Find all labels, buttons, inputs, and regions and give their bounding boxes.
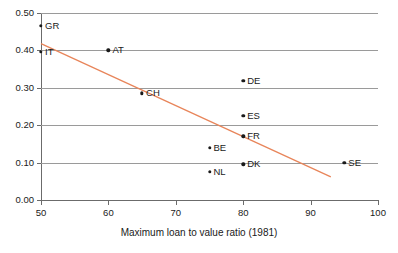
data-point-label: AT	[112, 46, 123, 56]
y-tick-mark	[37, 13, 41, 14]
x-tick-label: 60	[103, 208, 114, 218]
x-tick-mark	[378, 201, 379, 205]
x-tick-mark	[311, 201, 312, 205]
x-tick-mark	[108, 201, 109, 205]
y-tick-mark	[37, 125, 41, 126]
x-tick-mark	[243, 201, 244, 205]
gridline-horizontal	[41, 50, 378, 51]
data-point-label: CH	[146, 89, 160, 99]
y-tick-mark	[37, 163, 41, 164]
gridline-horizontal	[41, 88, 378, 89]
data-point-label: FR	[247, 132, 260, 142]
x-tick-label: 50	[36, 208, 47, 218]
data-point-label: IT	[45, 47, 53, 57]
y-tick-label: 0.20	[16, 120, 35, 130]
y-tick-label: 0.00	[16, 195, 35, 205]
x-axis-title: Maximum loan to value ratio (1981)	[0, 228, 398, 238]
data-point-label: ES	[247, 111, 260, 121]
data-point-label: DE	[247, 76, 260, 86]
x-tick-label: 100	[370, 208, 386, 218]
gridline-horizontal	[41, 13, 378, 14]
x-tick-label: 80	[238, 208, 249, 218]
gridline-horizontal	[41, 125, 378, 126]
scatter-chart: Maximum loan to value ratio (1981) 0.000…	[0, 0, 398, 253]
x-tick-mark	[41, 201, 42, 205]
y-tick-label: 0.50	[16, 8, 35, 18]
y-tick-mark	[37, 88, 41, 89]
x-axis-line	[41, 200, 379, 201]
data-point-label: NL	[214, 167, 226, 177]
y-tick-label: 0.30	[16, 83, 35, 93]
x-tick-label: 70	[171, 208, 182, 218]
x-tick-mark	[176, 201, 177, 205]
data-point-label: SE	[348, 158, 361, 168]
gridline-horizontal	[41, 163, 378, 164]
x-tick-label: 90	[305, 208, 316, 218]
data-point-label: BE	[214, 143, 227, 153]
data-point-label: DK	[247, 160, 260, 170]
data-point-label: GR	[45, 21, 59, 31]
y-tick-label: 0.40	[16, 45, 35, 55]
y-tick-label: 0.10	[16, 158, 35, 168]
